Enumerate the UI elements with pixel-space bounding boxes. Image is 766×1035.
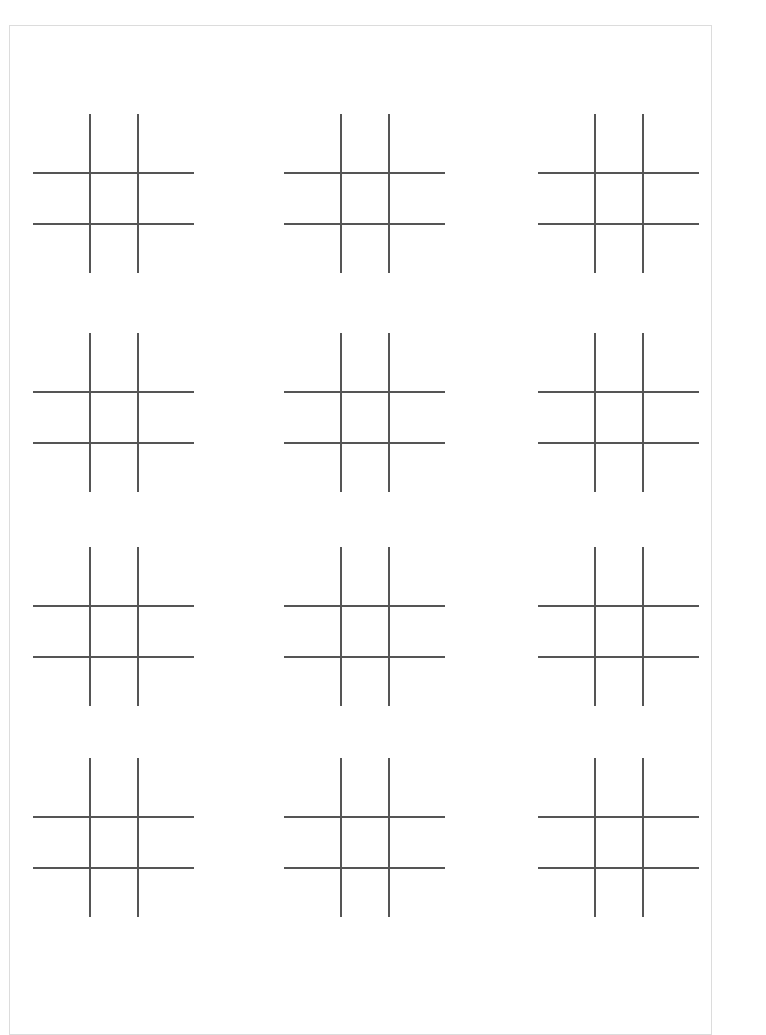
grid-cell-3-1[interactable] (284, 224, 341, 273)
grid-cell-2-2[interactable] (341, 817, 389, 868)
grid-cell-1-2[interactable] (341, 333, 389, 392)
grid-cell-3-3[interactable] (138, 868, 194, 917)
board-r3c2[interactable] (284, 547, 464, 732)
grid-cell-1-3[interactable] (138, 758, 194, 817)
grid-cell-2-3[interactable] (389, 392, 445, 443)
grid-cell-3-3[interactable] (389, 868, 445, 917)
grid-cell-3-1[interactable] (33, 443, 90, 492)
grid-cell-2-2[interactable] (595, 606, 643, 657)
grid-cell-2-3[interactable] (138, 173, 194, 224)
grid-cell-3-2[interactable] (341, 657, 389, 706)
grid-cell-2-3[interactable] (389, 173, 445, 224)
grid-cell-2-1[interactable] (33, 173, 90, 224)
grid-cell-3-2[interactable] (90, 443, 138, 492)
grid-cell-2-3[interactable] (389, 606, 445, 657)
grid-cell-3-3[interactable] (643, 657, 699, 706)
grid-cell-2-2[interactable] (341, 392, 389, 443)
grid-cell-2-3[interactable] (138, 392, 194, 443)
grid-cell-1-3[interactable] (138, 547, 194, 606)
grid-cell-3-3[interactable] (138, 443, 194, 492)
board-r1c3[interactable] (538, 114, 718, 299)
board-r4c3[interactable] (538, 758, 718, 943)
grid-cell-1-2[interactable] (595, 547, 643, 606)
grid-cell-2-2[interactable] (90, 606, 138, 657)
grid-cell-2-3[interactable] (643, 817, 699, 868)
board-r3c3[interactable] (538, 547, 718, 732)
grid-cell-3-3[interactable] (389, 224, 445, 273)
grid-cell-2-1[interactable] (284, 392, 341, 443)
board-r4c1[interactable] (33, 758, 213, 943)
grid-cell-2-3[interactable] (138, 817, 194, 868)
grid-cell-3-1[interactable] (538, 868, 595, 917)
grid-cell-2-2[interactable] (595, 392, 643, 443)
grid-cell-2-1[interactable] (284, 173, 341, 224)
grid-cell-1-1[interactable] (33, 333, 90, 392)
grid-cell-3-3[interactable] (389, 443, 445, 492)
grid-cell-3-3[interactable] (138, 657, 194, 706)
grid-cell-1-3[interactable] (389, 547, 445, 606)
grid-cell-1-3[interactable] (138, 333, 194, 392)
grid-cell-1-3[interactable] (643, 114, 699, 173)
grid-cell-2-1[interactable] (33, 392, 90, 443)
grid-cell-3-2[interactable] (90, 224, 138, 273)
grid-cell-1-2[interactable] (341, 547, 389, 606)
grid-cell-3-1[interactable] (284, 868, 341, 917)
grid-cell-2-1[interactable] (538, 817, 595, 868)
grid-cell-1-1[interactable] (538, 758, 595, 817)
grid-cell-1-3[interactable] (643, 547, 699, 606)
board-r1c1[interactable] (33, 114, 213, 299)
grid-cell-2-1[interactable] (538, 606, 595, 657)
grid-cell-3-2[interactable] (595, 868, 643, 917)
grid-cell-2-1[interactable] (284, 606, 341, 657)
board-r1c2[interactable] (284, 114, 464, 299)
grid-cell-1-1[interactable] (538, 333, 595, 392)
grid-cell-1-1[interactable] (284, 333, 341, 392)
grid-cell-2-2[interactable] (595, 173, 643, 224)
grid-cell-3-2[interactable] (341, 868, 389, 917)
grid-cell-3-2[interactable] (595, 224, 643, 273)
board-r2c2[interactable] (284, 333, 464, 518)
grid-cell-3-1[interactable] (284, 657, 341, 706)
grid-cell-3-1[interactable] (33, 657, 90, 706)
grid-cell-2-2[interactable] (90, 392, 138, 443)
grid-cell-1-3[interactable] (389, 758, 445, 817)
grid-cell-3-1[interactable] (538, 443, 595, 492)
board-r3c1[interactable] (33, 547, 213, 732)
grid-cell-1-3[interactable] (389, 114, 445, 173)
grid-cell-1-2[interactable] (90, 547, 138, 606)
grid-cell-2-1[interactable] (33, 606, 90, 657)
grid-cell-1-1[interactable] (33, 758, 90, 817)
grid-cell-1-2[interactable] (341, 758, 389, 817)
grid-cell-1-1[interactable] (284, 547, 341, 606)
grid-cell-1-3[interactable] (643, 758, 699, 817)
grid-cell-1-2[interactable] (90, 333, 138, 392)
grid-cell-2-2[interactable] (90, 173, 138, 224)
grid-cell-1-2[interactable] (595, 333, 643, 392)
grid-cell-1-2[interactable] (595, 758, 643, 817)
grid-cell-3-3[interactable] (643, 224, 699, 273)
grid-cell-3-2[interactable] (90, 657, 138, 706)
grid-cell-1-1[interactable] (33, 114, 90, 173)
grid-cell-2-3[interactable] (643, 606, 699, 657)
grid-cell-2-2[interactable] (90, 817, 138, 868)
grid-cell-1-1[interactable] (538, 547, 595, 606)
grid-cell-3-2[interactable] (90, 868, 138, 917)
board-r2c3[interactable] (538, 333, 718, 518)
grid-cell-2-1[interactable] (538, 173, 595, 224)
grid-cell-3-1[interactable] (538, 224, 595, 273)
grid-cell-3-3[interactable] (138, 224, 194, 273)
grid-cell-1-2[interactable] (341, 114, 389, 173)
grid-cell-2-1[interactable] (284, 817, 341, 868)
grid-cell-1-2[interactable] (90, 758, 138, 817)
grid-cell-3-2[interactable] (595, 443, 643, 492)
grid-cell-2-3[interactable] (138, 606, 194, 657)
grid-cell-3-2[interactable] (595, 657, 643, 706)
grid-cell-2-3[interactable] (643, 173, 699, 224)
grid-cell-2-1[interactable] (33, 817, 90, 868)
grid-cell-1-2[interactable] (90, 114, 138, 173)
grid-cell-1-2[interactable] (595, 114, 643, 173)
grid-cell-3-1[interactable] (284, 443, 341, 492)
grid-cell-2-1[interactable] (538, 392, 595, 443)
grid-cell-2-2[interactable] (595, 817, 643, 868)
grid-cell-1-3[interactable] (389, 333, 445, 392)
